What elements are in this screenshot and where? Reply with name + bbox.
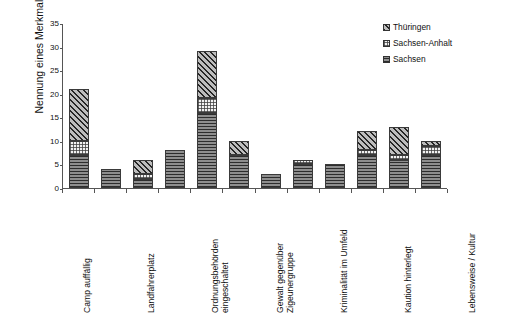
bar-segment-sachsen bbox=[325, 164, 345, 188]
bar-segment-anhalt bbox=[421, 146, 441, 155]
chart-container: Nennung eines Merkmals 05101520253035 Ca… bbox=[0, 0, 525, 318]
bar-slot bbox=[159, 24, 191, 188]
bar-slot bbox=[319, 24, 351, 188]
x-axis-label: Kriminalität im Umfeld bbox=[339, 193, 349, 313]
legend-item[interactable]: Sachsen-Anhalt bbox=[383, 35, 452, 51]
stacked-bar[interactable] bbox=[197, 51, 217, 188]
bar-slot bbox=[127, 24, 159, 188]
chart-legend: ThüringenSachsen-AnhaltSachsen bbox=[383, 19, 452, 67]
bar-segment-anhalt bbox=[197, 98, 217, 112]
x-axis-label: Landfahrerplatz bbox=[146, 193, 156, 313]
bar-segment-sachsen bbox=[165, 150, 185, 188]
legend-swatch-icon bbox=[383, 56, 390, 63]
stacked-bar[interactable] bbox=[261, 174, 281, 188]
bar-slot bbox=[191, 24, 223, 188]
x-axis-label: Gewalt gegenüber Zigeunergruppe bbox=[275, 193, 295, 313]
bar-slot bbox=[95, 24, 127, 188]
bar-segment-thueringen bbox=[197, 51, 217, 98]
bar-segment-sachsen bbox=[197, 113, 217, 188]
bar-slot bbox=[287, 24, 319, 188]
bar-slot bbox=[255, 24, 287, 188]
x-axis-labels: Camp auffälligLandfahrerplatzOrdnungsbeh… bbox=[62, 193, 447, 318]
legend-swatch-icon bbox=[383, 24, 390, 31]
bar-segment-sachsen bbox=[261, 174, 281, 188]
bar-slot bbox=[63, 24, 95, 188]
bar-segment-sachsen bbox=[357, 155, 377, 188]
bar-segment-sachsen bbox=[389, 160, 409, 188]
stacked-bar[interactable] bbox=[389, 127, 409, 188]
bar-segment-sachsen bbox=[69, 155, 89, 188]
stacked-bar[interactable] bbox=[357, 131, 377, 188]
legend-swatch-icon bbox=[383, 40, 390, 47]
bar-segment-thueringen bbox=[69, 89, 89, 141]
stacked-bar[interactable] bbox=[293, 160, 313, 188]
legend-item[interactable]: Sachsen bbox=[383, 51, 452, 67]
stacked-bar[interactable] bbox=[165, 150, 185, 188]
stacked-bar[interactable] bbox=[325, 164, 345, 188]
bar-segment-sachsen bbox=[133, 179, 153, 188]
bar-segment-sachsen bbox=[421, 155, 441, 188]
bar-segment-sachsen bbox=[293, 164, 313, 188]
stacked-bar[interactable] bbox=[69, 89, 89, 188]
x-axis-label: Kaution hinterlegt bbox=[403, 193, 413, 313]
bar-segment-thueringen bbox=[133, 160, 153, 174]
legend-item[interactable]: Thüringen bbox=[383, 19, 452, 35]
x-axis-label: Lebensweise / Kultur bbox=[467, 193, 477, 313]
bar-segment-sachsen bbox=[101, 169, 121, 188]
stacked-bar[interactable] bbox=[133, 160, 153, 188]
y-axis-title: Nennung eines Merkmals bbox=[33, 0, 45, 139]
x-axis-label: Ordnungsbehörden eingeschaltet bbox=[210, 193, 230, 313]
bar-segment-thueringen bbox=[389, 127, 409, 155]
stacked-bar[interactable] bbox=[101, 169, 121, 188]
x-axis-label: Camp auffällig bbox=[82, 193, 92, 313]
legend-label: Sachsen-Anhalt bbox=[393, 38, 452, 48]
legend-label: Sachsen bbox=[393, 54, 426, 64]
legend-label: Thüringen bbox=[393, 22, 431, 32]
stacked-bar[interactable] bbox=[421, 141, 441, 188]
bar-slot bbox=[223, 24, 255, 188]
stacked-bar[interactable] bbox=[229, 141, 249, 188]
x-axis-tick-mark bbox=[447, 189, 448, 193]
bar-slot bbox=[351, 24, 383, 188]
bar-segment-anhalt bbox=[69, 141, 89, 155]
bar-segment-thueringen bbox=[229, 141, 249, 155]
bar-segment-sachsen bbox=[229, 155, 249, 188]
bar-segment-thueringen bbox=[357, 131, 377, 150]
